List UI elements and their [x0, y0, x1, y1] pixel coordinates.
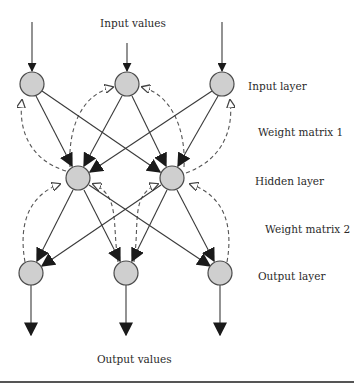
bottom-divider: [0, 381, 354, 383]
output-node-2: [114, 261, 138, 285]
label-input-values: Input values: [100, 17, 166, 29]
feedback-connections-2: [23, 184, 229, 262]
output-node-1: [19, 261, 43, 285]
input-layer-nodes: [20, 72, 234, 96]
output-arrows: [31, 285, 220, 335]
output-layer-nodes: [19, 261, 232, 285]
input-node-2: [115, 72, 139, 96]
input-node-1: [20, 72, 44, 96]
hidden-node-1: [66, 166, 90, 190]
input-node-3: [210, 72, 234, 96]
hidden-node-2: [160, 166, 184, 190]
output-node-3: [208, 261, 232, 285]
label-output-layer: Output layer: [258, 270, 326, 282]
label-weight-matrix-2: Weight matrix 2: [265, 223, 350, 235]
label-weight-matrix-1: Weight matrix 1: [258, 126, 343, 138]
input-arrows: [32, 22, 222, 71]
weight-matrix-1-edges: [36, 91, 218, 172]
label-input-layer: Input layer: [248, 80, 308, 92]
neural-network-diagram: Input values Input layer Weight matrix 1…: [0, 0, 354, 385]
weight-matrix-2-edges: [37, 185, 214, 266]
label-output-values: Output values: [97, 353, 172, 365]
label-hidden-layer: Hidden layer: [255, 175, 325, 187]
hidden-layer-nodes: [66, 166, 184, 190]
